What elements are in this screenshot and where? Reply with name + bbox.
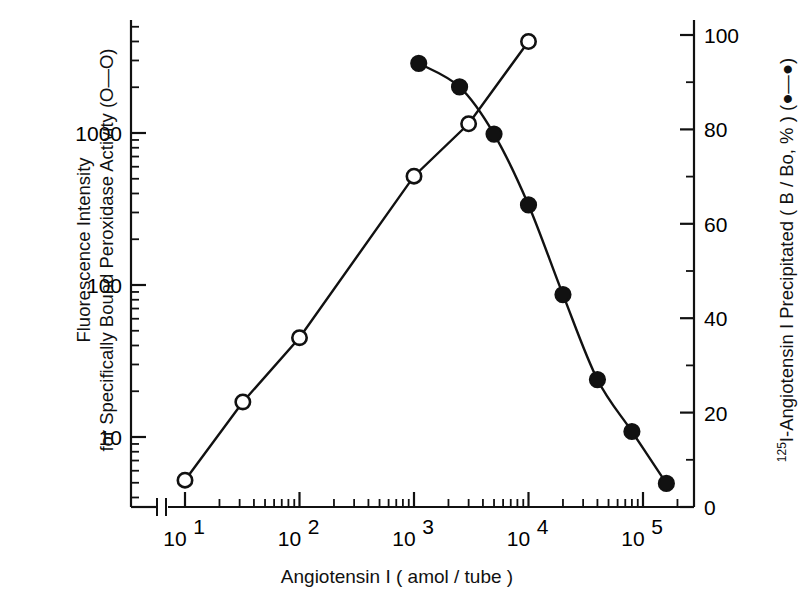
data-point-open-circle [407, 169, 421, 183]
x-axis-tick-label: 10 [621, 527, 644, 550]
x-axis-tick-exponent: 5 [651, 515, 663, 538]
x-axis-tick-label: 10 [392, 527, 415, 550]
y-right-axis-title: 125I-Angiotensin I Precipitated ( B / Bo… [770, 0, 802, 520]
data-point-open-circle [178, 473, 192, 487]
y-left-axis-title-line1: Fluorescence Intensity [73, 157, 96, 342]
data-point-filled-circle [624, 424, 639, 439]
y-right-tick-label: 60 [704, 213, 727, 236]
x-axis-tick-exponent: 2 [308, 515, 320, 538]
x-axis-tick-exponent: 4 [537, 515, 549, 538]
data-point-filled-circle [659, 476, 674, 491]
x-axis-tick-label: 10 [163, 527, 186, 550]
x-axis-tick-exponent: 1 [193, 515, 205, 538]
y-right-tick-label: 100 [704, 24, 739, 47]
y-left-axis-title-line2: for Specifically Bound Peroxidase Activi… [96, 48, 119, 451]
y-right-tick-label: 80 [704, 118, 727, 141]
y-right-tick-label: 40 [704, 307, 727, 330]
data-point-filled-circle [555, 287, 570, 302]
y-right-axis-title-text: I-Angiotensin I Precipitated ( B / Bo, %… [777, 58, 798, 442]
x-axis-title: Angiotensin I ( amol / tube ) [0, 566, 794, 588]
isotope-superscript: 125 [775, 442, 789, 462]
data-point-open-circle [236, 395, 250, 409]
x-axis-tick-exponent: 3 [422, 515, 434, 538]
series-filled-circle-line [419, 63, 667, 483]
x-axis-tick-label: 10 [278, 527, 301, 550]
data-point-open-circle [461, 117, 475, 131]
data-point-filled-circle [521, 197, 536, 212]
y-right-tick-label: 20 [704, 402, 727, 425]
y-left-axis-title: Fluorescence Intensity for Specifically … [64, 0, 128, 510]
data-point-open-circle [292, 331, 306, 345]
data-point-filled-circle [452, 79, 467, 94]
data-point-filled-circle [486, 127, 501, 142]
data-point-filled-circle [411, 56, 426, 71]
data-point-open-circle [521, 34, 535, 48]
x-axis-tick-label: 10 [507, 527, 530, 550]
data-point-filled-circle [590, 372, 605, 387]
y-right-tick-label: 0 [704, 496, 716, 519]
